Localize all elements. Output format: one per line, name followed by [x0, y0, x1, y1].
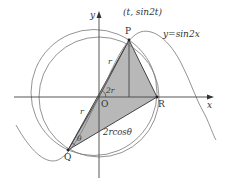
x-axis-arrow-icon: [207, 95, 214, 100]
curve-label: y=sin2x: [162, 29, 200, 39]
point-r-label: R: [158, 99, 165, 109]
y-axis-arrow-icon: [97, 11, 102, 18]
point-r: [156, 96, 159, 99]
point-q-label: Q: [64, 152, 71, 162]
point-p-coordinates: (t, sin2t): [123, 7, 162, 17]
angle-o-label: 2r: [105, 86, 115, 95]
y-axis-label: y: [89, 10, 96, 20]
segment-oq-label: r: [80, 107, 85, 116]
segment-op-label: r: [108, 57, 113, 66]
x-axis-label: x: [207, 100, 212, 110]
point-q: [67, 149, 70, 152]
point-p: [128, 39, 131, 42]
angle-q-label: θ: [77, 134, 82, 143]
origin-label: O: [101, 99, 108, 109]
diagram-canvas: y x O P R Q (t, sin2t) y=sin2x r r 2rcos…: [0, 0, 226, 179]
segment-qr-label: 2rcosθ: [102, 127, 132, 137]
point-p-label: P: [125, 26, 131, 36]
